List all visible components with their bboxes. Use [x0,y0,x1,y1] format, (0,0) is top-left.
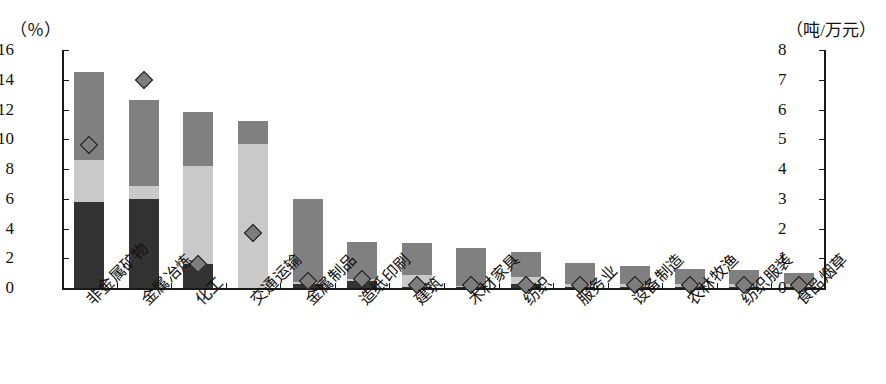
bar-segment-middle [183,166,213,264]
right-tick-label: 2 [778,220,787,237]
right-tick-label: 6 [778,101,787,118]
right-tick [819,110,826,111]
bar-segment-top [238,121,268,143]
left-tick-label: 0 [6,279,15,296]
right-tick-label: 7 [778,71,787,88]
left-tick [62,110,69,111]
bar-segment-top [183,112,213,166]
left-tick-label: 16 [0,41,14,58]
right-tick [819,199,826,200]
left-tick [62,288,69,289]
bar-segment-bottom [74,202,104,288]
right-tick [819,80,826,81]
left-tick [62,139,69,140]
bar-segment-middle [238,144,268,288]
left-tick [62,80,69,81]
left-tick-label: 10 [0,130,14,147]
left-tick-label: 14 [0,71,14,88]
left-tick [62,50,69,51]
left-tick [62,258,69,259]
right-tick [819,50,826,51]
bar-segment-middle [74,160,104,202]
right-tick-label: 3 [778,190,787,207]
right-tick-label: 4 [778,160,787,177]
bar-segment-top [129,100,159,186]
right-tick [819,258,826,259]
bar-交通运输[interactable] [238,121,268,288]
bar-segment-middle [129,186,159,199]
right-tick-label: 5 [778,130,787,147]
right-axis-unit-label: （吨/万元） [786,16,876,41]
left-axis-unit-label: （％） [10,16,61,41]
left-tick [62,229,69,230]
left-tick [62,169,69,170]
left-tick-label: 6 [6,190,15,207]
left-tick-label: 2 [6,249,15,266]
right-tick-label: 0 [778,279,787,296]
right-tick [819,229,826,230]
bar-非金属矿物[interactable] [74,72,104,288]
right-tick [819,139,826,140]
left-tick-label: 12 [0,101,14,118]
stacked-bar-chart: （％） （吨/万元） 1614121086420 876543210 非金属矿物… [0,0,886,384]
left-tick [62,199,69,200]
right-tick [819,169,826,170]
left-tick-label: 8 [6,160,15,177]
right-tick-label: 8 [778,41,787,58]
left-tick-label: 4 [6,220,15,237]
